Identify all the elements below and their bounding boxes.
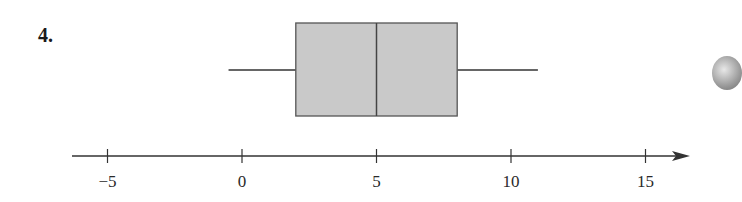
decorative-sphere-icon — [712, 56, 742, 90]
axis-tick-label: 0 — [238, 172, 247, 191]
axis-tick-label: 10 — [503, 172, 520, 191]
axis-tick-label: 15 — [637, 172, 654, 191]
box — [296, 23, 457, 116]
number-line-axis: −5051015 — [72, 149, 690, 191]
axis-tick-label: 5 — [372, 172, 381, 191]
axis-tick-label: −5 — [98, 172, 116, 191]
